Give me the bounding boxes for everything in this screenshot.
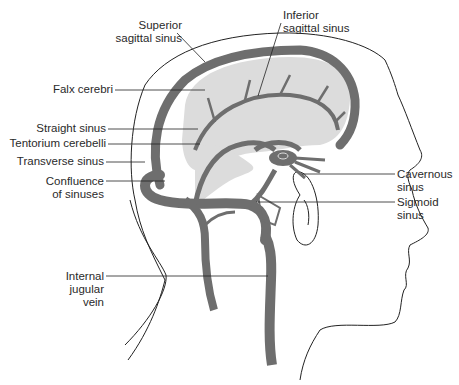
label-line: sagittal sinus [283,22,349,35]
ear [293,172,318,245]
label-tentorium-cerebelli: Tentorium cerebelli [0,137,106,150]
occipital-vein [185,200,214,310]
label-sigmoid-sinus: Sigmoid sinus [397,196,439,222]
label-line: Tentorium cerebelli [0,137,106,150]
cavernous-sinus [269,150,297,166]
label-line: Falx cerebri [20,83,113,96]
label-line: Sigmoid [397,196,439,209]
label-internal-jugular-vein: Internal jugular vein [0,270,104,309]
internal-jugular-vein [265,235,272,365]
label-line: Superior [108,19,182,32]
label-superior-sagittal-sinus: Superior sagittal sinus [108,19,182,45]
label-line: sinus [397,181,453,194]
label-line: vein [0,296,104,309]
label-line: sinus [397,209,439,222]
label-line: Transverse sinus [0,155,104,168]
label-transverse-sinus: Transverse sinus [0,155,104,168]
label-line: Straight sinus [0,122,106,135]
label-line: Confluence [0,175,104,188]
label-inferior-sagittal-sinus: Inferior sagittal sinus [283,9,349,35]
label-line: jugular [0,283,104,296]
label-line: sagittal sinus [108,32,182,45]
label-falx-cerebri: Falx cerebri [20,83,113,96]
label-cavernous-sinus: Cavernous sinus [397,168,453,194]
label-line: Internal [0,270,104,283]
label-straight-sinus: Straight sinus [0,122,106,135]
sigmoid-sinus [250,170,275,205]
label-confluence-of-sinuses: Confluence of sinuses [0,175,104,201]
label-line: Cavernous [397,168,453,181]
label-line: of sinuses [0,188,104,201]
label-line: Inferior [283,9,349,22]
